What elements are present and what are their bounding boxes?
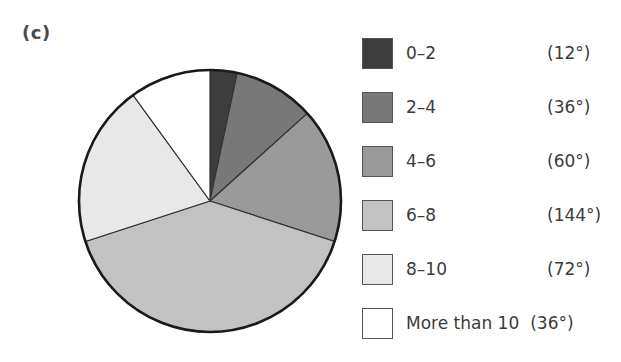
legend-swatch <box>362 92 393 123</box>
legend-swatch <box>362 254 393 285</box>
legend-swatch <box>362 38 393 69</box>
legend-label: 4–6 <box>406 151 436 171</box>
legend-degrees: (72°) <box>547 259 590 279</box>
legend-label: 0–2 <box>406 43 436 63</box>
legend-row: 2–4(36°) <box>362 80 612 134</box>
legend-row: 8–10(72°) <box>362 242 612 296</box>
legend-label: More than 10 <box>406 313 519 333</box>
legend-row: More than 10(36°) <box>362 296 612 350</box>
legend-degrees: (36°) <box>547 97 590 117</box>
legend-row: 6–8(144°) <box>362 188 612 242</box>
legend-row: 4–6(60°) <box>362 134 612 188</box>
legend-label: 6–8 <box>406 205 436 225</box>
pie-chart <box>74 65 346 337</box>
legend-swatch <box>362 200 393 231</box>
pie-chart-svg <box>74 65 346 337</box>
legend-swatch <box>362 308 393 339</box>
legend-label: 8–10 <box>406 259 447 279</box>
legend-degrees: (12°) <box>547 43 590 63</box>
legend-row: 0–2(12°) <box>362 26 612 80</box>
legend-degrees: (144°) <box>547 205 601 225</box>
legend-degrees: (60°) <box>547 151 590 171</box>
legend-swatch <box>362 146 393 177</box>
legend-label: 2–4 <box>406 97 436 117</box>
panel-label: (c) <box>22 22 51 43</box>
legend-degrees: (36°) <box>530 313 573 333</box>
chart-legend: 0–2(12°)2–4(36°)4–6(60°)6–8(144°)8–10(72… <box>362 26 612 350</box>
